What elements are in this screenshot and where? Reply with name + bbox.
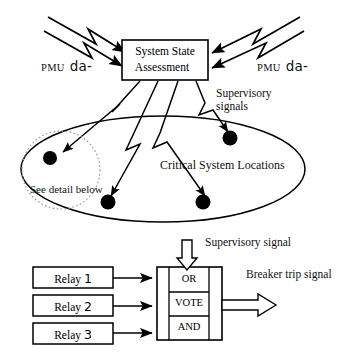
supervisory-signal-bottom-label: Supervisory signal <box>205 236 291 248</box>
supervisory-fanout-lines <box>63 81 228 196</box>
critical-location-node-1 <box>43 151 57 165</box>
breaker-trip-hollow-arrow <box>222 294 276 316</box>
relay-1-number: 1 <box>84 271 92 286</box>
supervisory-signals-line2: signals <box>216 100 272 112</box>
logic-gate-label-or: OR <box>166 273 212 284</box>
critical-system-locations-label: Critical System Locations <box>160 159 285 172</box>
relay-label-3: Relay 3 <box>33 327 113 342</box>
relay-1-name: Relay <box>54 273 81 285</box>
supervisory-signals-label: Supervisory signals <box>216 87 272 112</box>
relay-label-1: Relay 1 <box>33 271 113 286</box>
detail-highlight-circle <box>22 131 100 209</box>
fanout-line-2 <box>111 81 158 196</box>
relay-label-2: Relay 2 <box>33 299 113 314</box>
supervisory-signals-line1: Supervisory <box>216 87 272 99</box>
relay-2-name: Relay <box>54 301 81 313</box>
pmu-data-left-big: da- <box>70 58 93 74</box>
breaker-trip-signal-label: Breaker trip signal <box>246 268 332 280</box>
pmu-data-right-big: da- <box>286 58 309 74</box>
fanout-line-1 <box>63 81 140 152</box>
relay-2-number: 2 <box>84 299 92 314</box>
pmu-data-left-small: PMU <box>41 62 65 73</box>
supervisory-signal-hollow-arrow <box>177 240 197 270</box>
fanout-line-3 <box>153 81 205 196</box>
system-state-assessment-line2: Assessment <box>119 61 205 73</box>
logic-gate-label-vote: VOTE <box>166 297 212 308</box>
relay-3-number: 3 <box>84 327 92 342</box>
relay-connector-arrows <box>113 278 152 333</box>
system-state-assessment-line1: System State <box>122 45 208 57</box>
critical-location-node-2 <box>101 195 116 210</box>
pmu-data-right-small: PMU <box>257 62 281 73</box>
pmu-data-label-left: PMUda- <box>41 59 92 74</box>
critical-location-node-3 <box>196 195 211 210</box>
see-detail-below-label: See detail below <box>30 184 103 196</box>
pmu-data-label-right: PMUda- <box>257 59 308 74</box>
diagram-canvas: System State Assessment PMUda- PMUda- Su… <box>0 0 348 364</box>
relay-3-name: Relay <box>54 329 81 341</box>
critical-location-node-4 <box>223 131 238 146</box>
logic-gate-label-and: AND <box>166 321 212 332</box>
